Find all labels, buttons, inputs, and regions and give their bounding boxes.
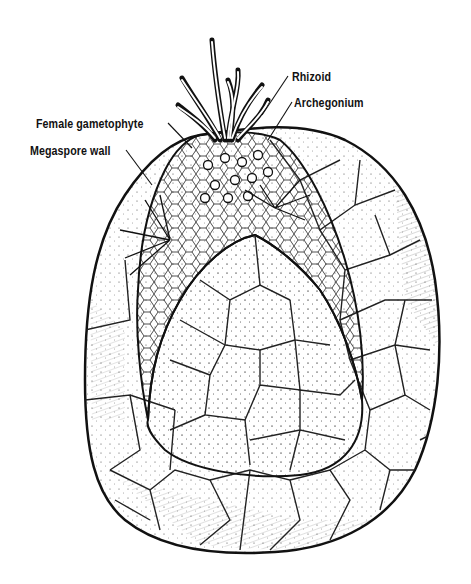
label-megaspore-wall: Megaspore wall xyxy=(30,144,111,157)
diagram-canvas: Rhizoid Archegonium Female gametophyte M… xyxy=(0,0,471,584)
label-rhizoid: Rhizoid xyxy=(292,70,331,83)
label-archegonium: Archegonium xyxy=(294,96,364,109)
megaspore-illustration xyxy=(0,0,471,584)
label-female-gametophyte: Female gametophyte xyxy=(36,117,144,130)
